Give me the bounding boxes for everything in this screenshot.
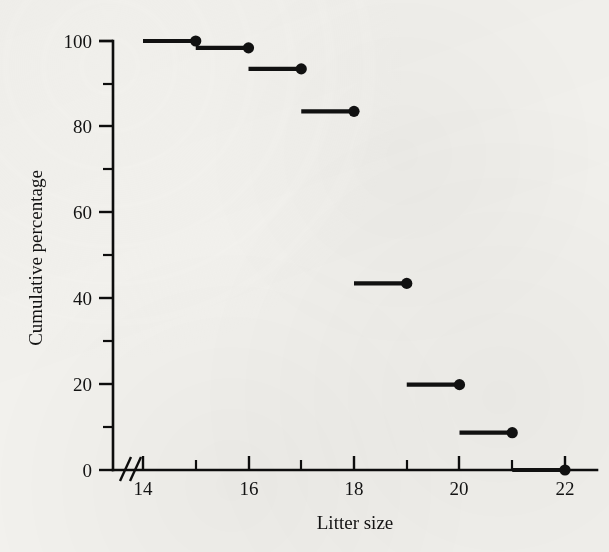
y-axis-minor-ticks [103,84,113,427]
x-tick-label: 18 [345,478,364,499]
data-point-marker [243,42,254,53]
cumulative-percentage-step-chart: 100 80 60 40 20 0 14 16 18 20 [0,0,609,552]
x-tick-label: 20 [450,478,469,499]
y-tick-label: 60 [73,202,92,223]
data-point-marker [348,106,359,117]
data-point-marker [296,63,307,74]
data-point-marker [507,427,518,438]
figure-container: 100 80 60 40 20 0 14 16 18 20 [0,0,609,552]
x-tick-label: 22 [556,478,575,499]
data-point-marker [559,464,570,475]
y-tick-label: 20 [73,374,92,395]
y-axis-title: Cumulative percentage [25,170,46,346]
y-tick-label: 40 [73,288,92,309]
data-point-marker [454,379,465,390]
y-axis-tick-labels: 100 80 60 40 20 0 [64,31,93,481]
data-point-marker [190,35,201,46]
x-axis-title: Litter size [317,512,394,533]
x-axis-tick-labels: 14 16 18 20 22 [134,478,575,499]
x-tick-label: 14 [134,478,154,499]
x-tick-label: 16 [240,478,259,499]
y-tick-label: 80 [73,116,92,137]
x-axis-major-ticks [143,456,565,470]
y-tick-label: 100 [64,31,93,52]
data-point-marker [401,278,412,289]
step-series [143,35,571,475]
y-tick-label: 0 [83,460,93,481]
